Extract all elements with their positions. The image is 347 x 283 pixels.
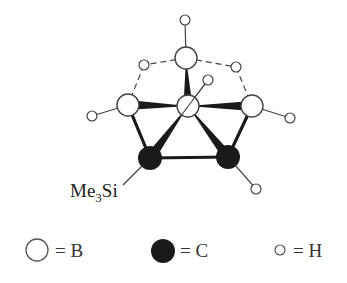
sime3-label-tail: Si — [102, 180, 118, 201]
legend-hydrogen-symbol — [275, 245, 285, 255]
atom-c1-carbon — [138, 146, 162, 170]
atom-c2-carbon — [216, 145, 240, 169]
legend-item-carbon: = C — [151, 239, 208, 263]
atom-h4-hydrogen — [285, 113, 295, 123]
atom-b4-boron — [241, 95, 263, 117]
atoms-layer — [87, 15, 295, 194]
legend: = B = C = H — [26, 239, 322, 263]
legend-boron-symbol — [26, 239, 48, 261]
atom-hb1-hydrogen — [139, 60, 149, 70]
atom-h3-hydrogen — [87, 111, 97, 121]
atom-b3-boron — [117, 94, 139, 116]
atom-h5-hydrogen — [251, 184, 261, 194]
atom-hb2-hydrogen — [231, 62, 241, 72]
sime3-label: Me3Si — [70, 180, 118, 205]
legend-carbon-symbol — [151, 239, 175, 263]
atom-h2-hydrogen — [203, 75, 213, 85]
legend-item-boron: = B — [26, 239, 83, 261]
sime3-label-main: Me — [70, 180, 95, 201]
atom-b1-boron — [175, 47, 197, 69]
atom-h1-hydrogen — [180, 15, 190, 25]
legend-hydrogen-text: = H — [293, 240, 322, 261]
legend-item-hydrogen: = H — [275, 240, 322, 261]
carborane-structure-diagram: Me3Si = B = C = H — [0, 0, 347, 283]
legend-boron-text: = B — [55, 240, 83, 261]
legend-carbon-text: = C — [180, 240, 208, 261]
